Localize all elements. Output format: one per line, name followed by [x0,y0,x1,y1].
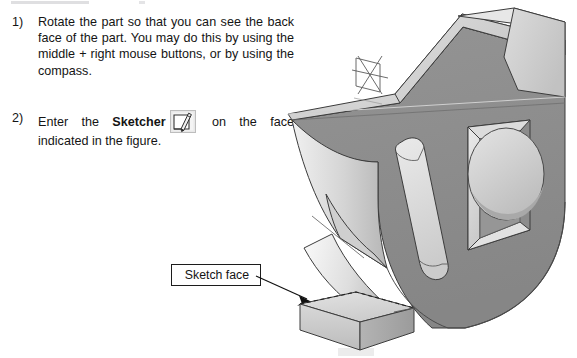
sketch-face-callout-box: Sketch face [171,264,261,286]
cad-part-figure [282,2,577,358]
step-2-text: Enter the Sketcher [38,110,294,149]
sketch-face-callout-label: Sketch face [172,265,262,287]
sketcher-icon[interactable] [170,110,196,133]
axis-system-icon [352,56,388,94]
step-2-text-before: Enter the [38,115,112,129]
scan-artifact-top-dot [139,1,145,4]
step-2-marker: 2) [12,110,34,126]
instruction-step-1: 1) Rotate the part so that you can see t… [12,14,294,79]
instruction-list: 1) Rotate the part so that you can see t… [12,14,294,149]
step-1-text: Rotate the part so that you can see the … [38,14,294,79]
instruction-step-2: 2) Enter the Sketcher [12,110,294,149]
step-1-marker: 1) [12,14,34,30]
sketcher-term: Sketcher [112,115,165,129]
page-root: 1) Rotate the part so that you can see t… [0,0,577,358]
scan-artifact-top-bar [11,1,89,4]
